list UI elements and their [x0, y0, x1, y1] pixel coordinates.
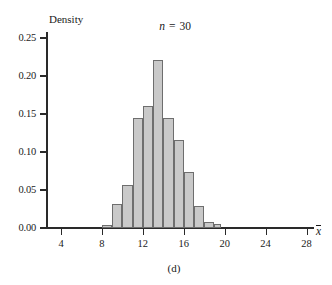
histogram-bar [163, 118, 173, 228]
histogram-bar [112, 204, 122, 228]
histogram-figure: n=30 Density x 0.000.050.100.150.200.25 … [0, 0, 332, 285]
figure-caption: (d) [0, 262, 332, 274]
histogram-bar [194, 206, 204, 228]
histogram-bar [174, 140, 184, 228]
histogram-bar [143, 106, 153, 228]
histogram-bar [122, 185, 132, 228]
plot-area: n=30 Density x 0.000.050.100.150.200.25 … [0, 0, 332, 285]
histogram-bar [214, 224, 220, 228]
histogram-bar [204, 222, 214, 228]
histogram-bar [133, 118, 143, 228]
histogram-bars [0, 0, 332, 285]
histogram-bar [153, 60, 163, 228]
histogram-bar [184, 172, 194, 228]
histogram-bar [102, 225, 112, 228]
